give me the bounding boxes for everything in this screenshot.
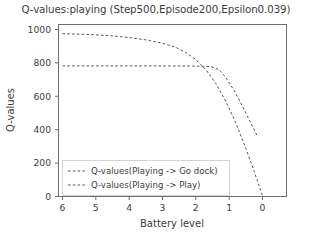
y-tick-label-400: 400 xyxy=(33,124,51,135)
y-axis: 0 200 400 600 800 1000 xyxy=(28,24,59,202)
y-tick-label-600: 600 xyxy=(33,91,51,102)
legend: Q-values(Playing -> Go dock) Q-values(Pl… xyxy=(63,161,230,196)
legend-label-go-dock: Q-values(Playing -> Go dock) xyxy=(91,166,218,176)
x-tick-label-1: 1 xyxy=(226,202,232,213)
y-tick-label-0: 0 xyxy=(45,191,51,202)
x-tick-label-6: 6 xyxy=(60,202,66,213)
y-tick-label-200: 200 xyxy=(33,157,51,168)
series-line-play xyxy=(63,66,258,136)
x-tick-label-0: 0 xyxy=(260,202,266,213)
y-tick-label-1000: 1000 xyxy=(28,24,52,35)
legend-label-play: Q-values(Playing -> Play) xyxy=(91,180,200,190)
x-axis-title: Battery level xyxy=(140,218,204,229)
plot-canvas: 0 200 400 600 800 1000 6 5 4 3 2 xyxy=(0,0,312,240)
x-tick-label-2: 2 xyxy=(193,202,199,213)
x-tick-label-4: 4 xyxy=(126,202,132,213)
x-tick-label-5: 5 xyxy=(93,202,99,213)
y-tick-label-800: 800 xyxy=(33,57,51,68)
x-tick-label-3: 3 xyxy=(160,202,166,213)
chart-figure: Q-values:playing (Step500,Episode200,Eps… xyxy=(0,0,312,240)
x-axis: 6 5 4 3 2 1 0 xyxy=(60,197,266,214)
y-axis-title: Q-values xyxy=(5,88,16,132)
